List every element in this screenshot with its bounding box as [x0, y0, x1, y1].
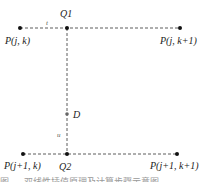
label-p-j-k1: P(j, k+1)	[159, 35, 197, 47]
point-p-j1-k1	[175, 152, 179, 156]
label-p-j1-k1: P(j+1, k+1)	[149, 160, 199, 172]
label-q2: Q2	[59, 161, 71, 172]
point-p-j1-k	[21, 152, 25, 156]
figure-caption: 图 … 双线性插值原理及计算步骤示意图	[0, 175, 203, 182]
label-p-j-k: P(j, k)	[4, 35, 31, 47]
bilinear-interpolation-diagram: Q1 t P(j, k) P(j, k+1) D u P(j+1, k) Q2 …	[0, 0, 203, 182]
point-q1	[65, 26, 69, 30]
point-d	[65, 112, 69, 116]
point-p-j-k1	[178, 26, 182, 30]
label-t: t	[46, 19, 49, 27]
label-q1: Q1	[60, 8, 72, 19]
point-p-j-k	[18, 26, 22, 30]
label-u: u	[57, 131, 61, 139]
label-p-j1-k: P(j+1, k)	[3, 160, 41, 172]
point-q2	[65, 152, 69, 156]
label-d: D	[72, 109, 81, 120]
